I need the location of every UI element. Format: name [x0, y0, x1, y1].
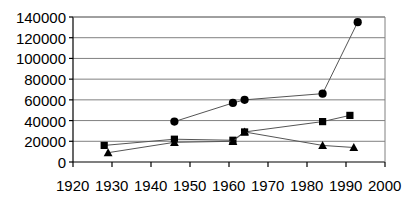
- series-square-marker: [346, 112, 353, 119]
- series-circle-marker: [170, 118, 178, 126]
- x-axis-tick-label: 2000: [368, 178, 402, 193]
- series-circle-marker: [241, 96, 249, 104]
- y-axis-tick-label: 80000: [24, 72, 66, 87]
- y-axis-tick-label: 120000: [16, 31, 66, 46]
- series-circle-marker: [229, 99, 237, 107]
- chart-container: 020000400006000080000100000120000140000 …: [0, 0, 402, 209]
- series-square-marker: [319, 118, 326, 125]
- y-axis-tick-label: 40000: [24, 114, 66, 129]
- y-axis-tick-label: 100000: [16, 51, 66, 66]
- series-circle-marker: [354, 18, 362, 26]
- y-axis-tick-label: 0: [58, 155, 66, 170]
- y-axis-tick-label: 140000: [16, 10, 66, 25]
- series-circle-line: [174, 22, 357, 121]
- series-square-marker: [101, 142, 108, 149]
- series-circle-marker: [319, 90, 327, 98]
- y-axis-tick-label: 60000: [24, 93, 66, 108]
- y-axis-tick-label: 20000: [24, 134, 66, 149]
